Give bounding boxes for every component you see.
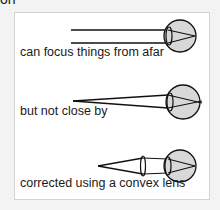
caption-far: can focus things from afar bbox=[20, 45, 164, 59]
caption-corrected: corrected using a convex lens bbox=[20, 176, 185, 190]
eyeball-icon bbox=[164, 20, 196, 52]
caption-near: but not close by bbox=[20, 104, 108, 118]
convex-lens-icon bbox=[141, 156, 146, 176]
